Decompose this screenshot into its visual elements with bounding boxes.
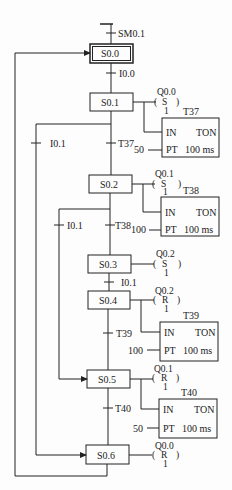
svg-text:1: 1 [163,459,168,469]
svg-text:): ) [176,373,179,384]
coil-address: Q0.0 [157,87,176,97]
svg-text:(: ( [152,179,155,190]
timer-name: T40 [181,387,197,398]
svg-text:): ) [177,295,180,306]
transition-label: SM0.1 [118,28,145,39]
timer-name: T37 [183,106,199,117]
svg-text:PT: PT [163,423,175,434]
coil-address: Q0.1 [155,169,174,179]
svg-text:(: ( [154,97,157,108]
transition-label: I0.0 [119,68,135,79]
svg-text:TON: TON [196,127,216,138]
svg-text:IN: IN [165,207,176,218]
svg-text:1: 1 [163,187,168,197]
timer-name: T39 [183,310,199,321]
svg-text:100 ms: 100 ms [185,144,214,155]
transition-label: T40 [115,403,131,414]
svg-text:PT: PT [166,144,178,155]
coil-address: Q0.2 [156,249,175,259]
step-label: S0.2 [100,179,118,190]
svg-text:PT: PT [165,224,177,235]
svg-text:100 ms: 100 ms [184,224,213,235]
timer-name: T38 [183,185,199,196]
step-label: S0.1 [101,97,119,108]
svg-text:): ) [176,97,179,108]
svg-text:50: 50 [134,144,144,155]
step-label: S0.6 [97,450,115,461]
svg-text:): ) [176,450,179,461]
svg-text:IN: IN [166,127,177,138]
step-label: S0.0 [101,48,119,59]
svg-text:): ) [178,259,181,270]
svg-text:(: ( [153,259,156,270]
svg-text:100 ms: 100 ms [183,345,212,356]
svg-text:IN: IN [163,404,174,415]
svg-text:100 ms: 100 ms [182,423,211,434]
transition-label: T39 [116,328,132,339]
svg-text:TON: TON [196,207,216,218]
svg-text:): ) [178,179,181,190]
sfc-diagram: SM0.1 S0.0 I0.0 S0.1 T37 I0.1 S0.2 T38 I… [0,0,232,490]
transition-label: T38 [115,220,131,231]
transition-label: T37 [118,138,134,149]
svg-text:100: 100 [128,345,143,356]
svg-text:1: 1 [164,106,169,116]
svg-text:1: 1 [164,268,169,278]
svg-text:100: 100 [131,224,146,235]
step-label: S0.3 [99,259,117,270]
svg-text:(: ( [152,373,155,384]
step-label: S0.5 [98,374,116,385]
svg-text:TON: TON [194,404,214,415]
transition-label: I0.1 [67,220,83,231]
svg-text:50: 50 [133,423,143,434]
svg-text:(: ( [152,450,155,461]
svg-text:IN: IN [164,327,175,338]
svg-text:1: 1 [164,304,169,314]
svg-text:1: 1 [163,382,168,392]
svg-text:PT: PT [164,345,176,356]
transition-label: I0.1 [50,138,66,149]
step-label: S0.4 [99,295,117,306]
svg-text:(: ( [153,295,156,306]
transition-label: I0.1 [121,277,137,288]
svg-text:TON: TON [195,327,215,338]
